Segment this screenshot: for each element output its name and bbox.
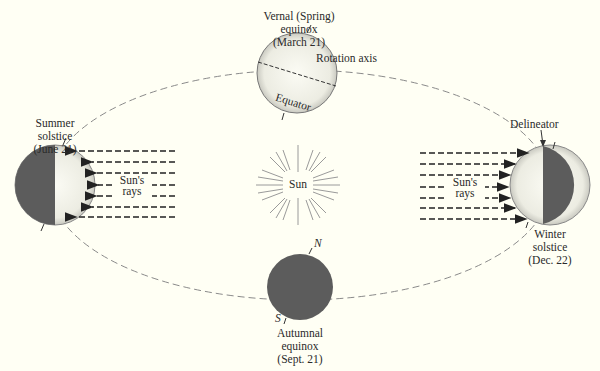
north-pole-label: N	[314, 237, 322, 250]
rotation-axis-label: Rotation axis	[316, 52, 377, 65]
winter-line-3: (Dec. 22)	[515, 254, 585, 267]
suns-rays-left-line-2: rays	[112, 186, 152, 197]
earth-winter-solstice	[510, 130, 590, 228]
delineator-label: Delineator	[510, 118, 559, 131]
vernal-line-1: Vernal (Spring)	[254, 10, 344, 23]
autumnal-equinox-label: Autumnal equinox (Sept. 21)	[262, 327, 338, 366]
autumnal-line-2: equinox	[262, 340, 338, 353]
winter-line-1: Winter	[515, 228, 585, 241]
south-pole-label: S	[275, 312, 281, 325]
winter-line-2: solstice	[515, 241, 585, 254]
winter-solstice-label: Winter solstice (Dec. 22)	[515, 228, 585, 267]
summer-solstice-label: Summer solstice (June 21)	[20, 117, 90, 156]
earth-orbit-seasons-diagram: Vernal (Spring) equinox (March 21) Rotat…	[0, 0, 600, 371]
vernal-line-2: equinox	[254, 23, 344, 36]
suns-rays-right-label: Sun's rays	[445, 177, 485, 199]
rotation-axis-bottom-tick	[282, 113, 284, 120]
summer-line-2: solstice	[20, 130, 90, 143]
autumnal-line-1: Autumnal	[262, 327, 338, 340]
vernal-equinox-label: Vernal (Spring) equinox (March 21)	[254, 10, 344, 49]
autumnal-line-3: (Sept. 21)	[262, 353, 338, 366]
suns-rays-right-line-2: rays	[445, 188, 485, 199]
sun-label: Sun	[283, 178, 313, 191]
suns-rays-left-label: Sun's rays	[112, 175, 152, 197]
summer-line-1: Summer	[20, 117, 90, 130]
vernal-line-3: (March 21)	[254, 36, 344, 49]
summer-line-3: (June 21)	[20, 143, 90, 156]
